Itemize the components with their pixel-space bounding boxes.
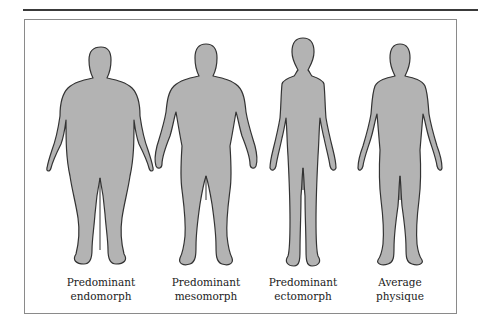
label-line2: physique — [345, 289, 455, 303]
label-line2: ectomorph — [248, 289, 358, 303]
average-silhouette — [358, 44, 442, 265]
label-line2: endomorph — [46, 289, 156, 303]
label-average: Average physique — [345, 275, 455, 303]
mesomorph-silhouette — [155, 44, 257, 265]
label-ectomorph: Predominant ectomorph — [248, 275, 358, 303]
label-line1: Predominant — [151, 275, 261, 289]
label-line2: mesomorph — [151, 289, 261, 303]
label-mesomorph: Predominant mesomorph — [151, 275, 261, 303]
label-line1: Predominant — [46, 275, 156, 289]
label-endomorph: Predominant endomorph — [46, 275, 156, 303]
label-line1: Average — [345, 275, 455, 289]
label-line1: Predominant — [248, 275, 358, 289]
ectomorph-silhouette — [270, 38, 336, 266]
